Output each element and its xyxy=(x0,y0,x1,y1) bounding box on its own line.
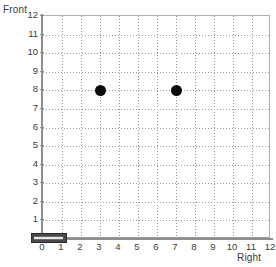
gridline-vertical xyxy=(195,16,196,237)
vertical-gridlines xyxy=(43,16,269,237)
data-point[interactable] xyxy=(95,85,106,96)
gridline-horizontal xyxy=(43,72,269,73)
gridline-vertical xyxy=(100,16,101,237)
gridline-vertical xyxy=(62,16,63,237)
y-tick-mark-3 xyxy=(40,182,44,183)
robot-body-inner xyxy=(34,236,63,241)
plot-area[interactable] xyxy=(42,15,270,238)
gridline-horizontal xyxy=(43,183,269,184)
gridline-horizontal xyxy=(43,53,269,54)
x-axis-line xyxy=(41,238,273,240)
gridline-horizontal xyxy=(43,165,269,166)
y-tick-mark-11 xyxy=(40,34,44,35)
x-tick-label-6: 6 xyxy=(146,241,166,252)
y-tick-label-6: 6 xyxy=(16,121,38,132)
x-tick-label-2: 2 xyxy=(70,241,90,252)
robot-marker xyxy=(31,233,67,243)
gridline-vertical xyxy=(176,16,177,237)
gridline-horizontal xyxy=(43,128,269,129)
gridline-vertical xyxy=(214,16,215,237)
gridline-horizontal xyxy=(43,109,269,110)
y-tick-mark-1 xyxy=(40,219,44,220)
y-tick-label-3: 3 xyxy=(16,176,38,187)
x-tick-label-5: 5 xyxy=(127,241,147,252)
gridline-vertical xyxy=(119,16,120,237)
y-tick-mark-2 xyxy=(40,201,44,202)
y-tick-mark-10 xyxy=(40,52,44,53)
y-tick-label-1: 1 xyxy=(16,213,38,224)
y-tick-mark-7 xyxy=(40,108,44,109)
y-tick-label-10: 10 xyxy=(16,46,38,57)
gridline-vertical xyxy=(157,16,158,237)
x-tick-label-8: 8 xyxy=(184,241,204,252)
gridline-horizontal xyxy=(43,146,269,147)
x-tick-label-11: 11 xyxy=(241,241,261,252)
y-tick-label-7: 7 xyxy=(16,102,38,113)
x-tick-label-4: 4 xyxy=(108,241,128,252)
gridline-horizontal xyxy=(43,220,269,221)
gridline-vertical xyxy=(233,16,234,237)
y-tick-mark-12 xyxy=(40,15,44,16)
gridline-vertical xyxy=(138,16,139,237)
y-tick-label-5: 5 xyxy=(16,139,38,150)
x-tick-label-9: 9 xyxy=(203,241,223,252)
y-tick-mark-4 xyxy=(40,164,44,165)
x-axis-title: Right xyxy=(237,252,261,263)
y-tick-label-2: 2 xyxy=(16,195,38,206)
y-tick-label-11: 11 xyxy=(16,28,38,39)
y-tick-label-9: 9 xyxy=(16,65,38,76)
y-tick-label-4: 4 xyxy=(16,158,38,169)
y-tick-mark-6 xyxy=(40,127,44,128)
x-tick-label-7: 7 xyxy=(165,241,185,252)
x-tick-label-12: 12 xyxy=(260,241,276,252)
gridline-vertical xyxy=(252,16,253,237)
gridline-horizontal xyxy=(43,202,269,203)
y-tick-mark-9 xyxy=(40,71,44,72)
gridline-vertical xyxy=(81,16,82,237)
y-tick-label-12: 12 xyxy=(16,9,38,20)
x-tick-label-3: 3 xyxy=(89,241,109,252)
y-tick-mark-8 xyxy=(40,89,44,90)
y-tick-mark-5 xyxy=(40,145,44,146)
x-tick-label-10: 10 xyxy=(222,241,242,252)
y-tick-label-8: 8 xyxy=(16,83,38,94)
gridline-horizontal xyxy=(43,90,269,91)
horizontal-gridlines xyxy=(43,16,269,237)
gridline-horizontal xyxy=(43,35,269,36)
data-point[interactable] xyxy=(171,85,182,96)
